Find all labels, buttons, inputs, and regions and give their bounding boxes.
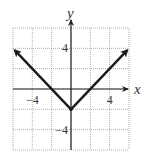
curve-right-branch (71, 50, 127, 109)
x-axis-label: x (133, 81, 141, 97)
y-axis-label: y (65, 5, 74, 21)
x-tick-label: −4 (26, 93, 39, 107)
graph: xy −444−4 (0, 0, 143, 162)
y-tick-label: 4 (62, 41, 68, 55)
y-tick-label: −4 (55, 123, 68, 137)
x-tick-label: 4 (107, 93, 113, 107)
vertex-point (69, 108, 73, 112)
curve-left-branch (15, 50, 71, 109)
